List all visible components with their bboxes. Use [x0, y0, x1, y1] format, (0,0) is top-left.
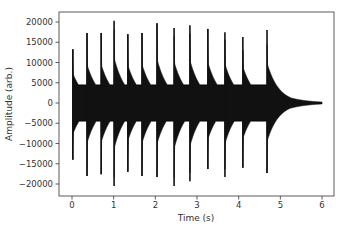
y-axis-label: Amplitude (arb.) [4, 67, 14, 141]
waveform-chart: 0123456 20000150001000050000−5000−10000−… [0, 0, 343, 233]
y-tick-label: −10000 [19, 139, 53, 149]
x-tick-label: 4 [236, 200, 241, 210]
x-tick-label: 0 [69, 200, 74, 210]
y-tick-label: 0 [48, 98, 53, 108]
x-tick-label: 2 [153, 200, 158, 210]
y-tick-label: −20000 [19, 179, 53, 189]
y-tick-label: 5000 [31, 78, 53, 88]
x-tick-label: 1 [111, 200, 116, 210]
y-tick-label: 20000 [26, 17, 53, 27]
y-tick-label: −15000 [19, 159, 53, 169]
waveform-series [72, 23, 322, 177]
x-tick-label: 3 [194, 200, 199, 210]
x-tick-label: 5 [278, 200, 283, 210]
x-axis-label: Time (s) [177, 213, 215, 223]
y-tick-label: 10000 [26, 58, 53, 68]
plot-area [72, 21, 322, 186]
x-axis-ticks: 0123456 [69, 196, 324, 210]
y-tick-label: 15000 [26, 37, 53, 47]
y-tick-label: −5000 [24, 118, 53, 128]
x-tick-label: 6 [319, 200, 324, 210]
y-axis-ticks: 20000150001000050000−5000−10000−15000−20… [19, 17, 59, 189]
